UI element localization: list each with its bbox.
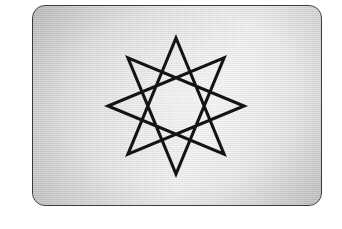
eight-pointed-star-graphic xyxy=(33,6,322,206)
star-polygon-path xyxy=(108,38,244,174)
star-plaque xyxy=(32,5,322,206)
star-layer xyxy=(33,6,321,205)
image-canvas xyxy=(0,0,342,229)
